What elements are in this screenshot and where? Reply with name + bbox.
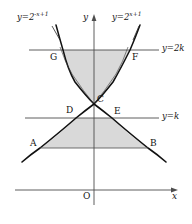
curve-label-left-exponent: -x+1 [34, 10, 48, 17]
figure-canvas: y=2-x+1 y=2x+1 y=2k y=k A B C D E F G y … [0, 0, 192, 224]
point-label-a: A [30, 139, 37, 148]
curve-label-right-base: y=2 [112, 12, 129, 22]
x-axis-label: x [172, 192, 177, 201]
curve-label-left: y=2-x+1 [17, 13, 49, 22]
point-label-c: C [97, 95, 104, 104]
y-axis-arrow-icon [92, 14, 97, 21]
point-label-f: F [132, 53, 138, 62]
point-label-b: B [150, 139, 157, 148]
point-label-e: E [114, 107, 121, 116]
point-label-g: G [50, 53, 57, 62]
curve-label-right-exponent: x+1 [129, 10, 141, 17]
leader-line-right-label [133, 26, 139, 40]
origin-label: O [83, 192, 90, 201]
point-label-d: D [66, 106, 73, 115]
label-line-k: y=k [162, 112, 179, 121]
curve-label-right: y=2x+1 [112, 13, 142, 22]
curve-label-left-base: y=2 [17, 12, 34, 22]
y-axis-label: y [83, 13, 88, 22]
label-line-2k: y=2k [162, 44, 184, 53]
